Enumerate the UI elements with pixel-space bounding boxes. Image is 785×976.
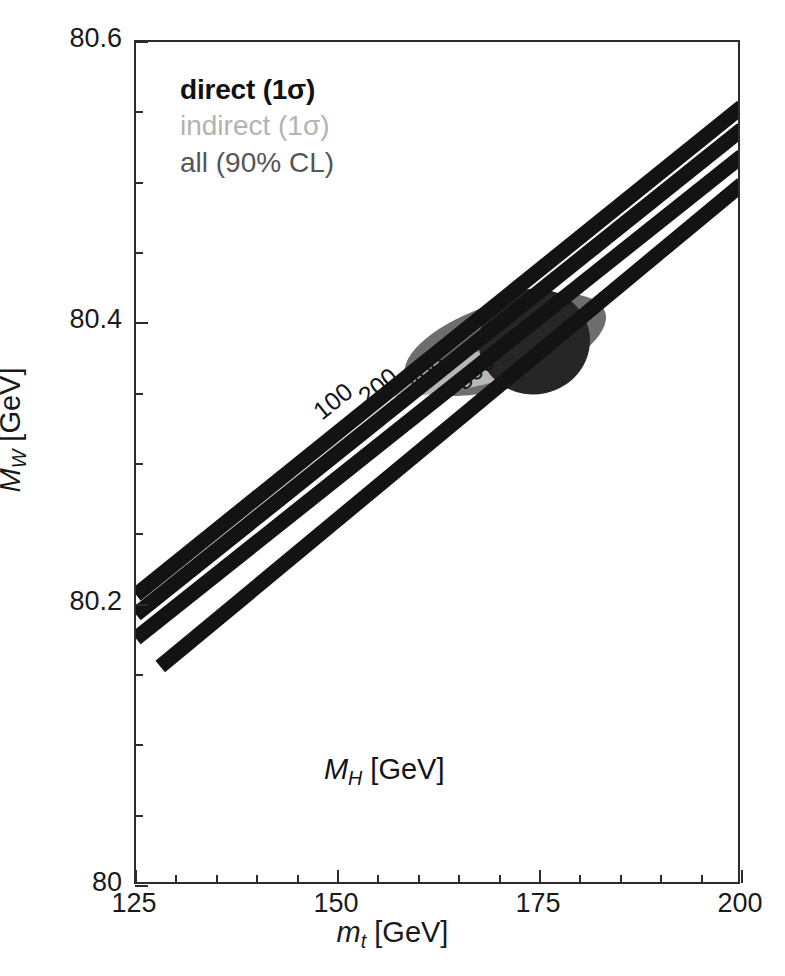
- x-tick-major: [741, 870, 743, 883]
- x-tick-major: [539, 870, 541, 883]
- y-tick-minor: [135, 111, 143, 113]
- x-tick-minor: [620, 875, 622, 883]
- x-tick-minor: [216, 875, 218, 883]
- y-tick-major: [135, 604, 148, 606]
- x-tick-minor: [377, 875, 379, 883]
- y-axis-title: MW [GeV]: [0, 368, 31, 493]
- legend: direct (1σ) indirect (1σ) all (90% CL): [180, 72, 334, 181]
- legend-item-direct: direct (1σ): [180, 72, 334, 108]
- legend-item-indirect: indirect (1σ): [180, 108, 334, 144]
- y-tick-minor: [135, 815, 143, 817]
- x-tick-minor: [256, 875, 258, 883]
- x-tick-minor: [458, 875, 460, 883]
- y-tick-minor: [135, 182, 143, 184]
- y-tick-minor: [135, 533, 143, 535]
- y-axis-title-symbol: M: [0, 468, 26, 492]
- y-tick-minor: [135, 463, 143, 465]
- y-tick-major: [135, 885, 148, 887]
- x-tick-minor: [499, 875, 501, 883]
- x-tick-major: [135, 870, 137, 883]
- y-tick-label: 80.4: [12, 304, 122, 335]
- x-tick-minor: [579, 875, 581, 883]
- y-tick-minor: [135, 744, 143, 746]
- y-tick-label: 80.2: [12, 586, 122, 617]
- x-tick-minor: [701, 875, 703, 883]
- mh-annotation-symbol: M: [324, 753, 348, 785]
- contour-line-800: [160, 184, 738, 666]
- y-axis-title-unit: [GeV]: [0, 368, 26, 450]
- x-tick-minor: [418, 875, 420, 883]
- y-tick-minor: [135, 252, 143, 254]
- y-tick-minor: [135, 674, 143, 676]
- x-tick-minor: [175, 875, 177, 883]
- mh-annotation-unit: [GeV]: [362, 753, 444, 785]
- x-tick-major: [337, 870, 339, 883]
- y-tick-major: [135, 41, 148, 43]
- legend-item-all: all (90% CL): [180, 145, 334, 181]
- x-tick-label: 175: [488, 888, 588, 919]
- y-tick-major: [135, 322, 148, 324]
- x-tick-label: 150: [286, 888, 386, 919]
- y-tick-minor: [135, 393, 143, 395]
- x-tick-minor: [297, 875, 299, 883]
- x-tick-label: 125: [84, 888, 184, 919]
- y-tick-label: 80.6: [12, 23, 122, 54]
- x-axis-title: mt [GeV]: [0, 916, 785, 953]
- x-axis-title-symbol: m: [337, 916, 361, 948]
- figure-canvas: 8080.280.480.6 125150175200 MW [GeV] mt …: [0, 0, 785, 976]
- mh-annotation-subscript: H: [348, 767, 362, 789]
- x-axis-title-unit: [GeV]: [366, 916, 448, 948]
- y-axis-title-subscript: W: [8, 450, 30, 469]
- contour-line-400: [136, 156, 738, 638]
- mh-annotation: MH [GeV]: [324, 753, 445, 790]
- x-tick-minor: [660, 875, 662, 883]
- x-tick-label: 200: [690, 888, 785, 919]
